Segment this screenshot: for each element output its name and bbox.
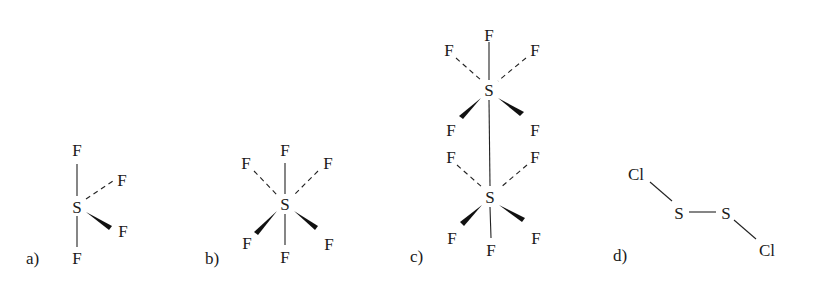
panel-label-d: d) [613,246,627,265]
atom-fluorine-top-lower-left: F [446,121,455,140]
bond-s-top-f-upper-left-dashed [456,58,482,81]
bond-s-bottom-f-upper-right-dashed [500,165,527,188]
atom-sulfur-bottom: S [485,188,494,207]
atom-fluorine-upper-right: F [323,154,332,173]
panel-b: S F F F F F F b) [205,141,334,268]
bond-s-f-upper-right-dashed [86,181,113,199]
atom-fluorine-top-upper-right: F [530,41,539,60]
atom-fluorine-lower-right: F [118,222,127,241]
panel-a: S F F F F a) [26,141,128,268]
atom-fluorine-bottom: F [72,249,81,268]
bond-s-bottom-f-lower-right-wedge [499,205,525,222]
atom-fluorine-top: F [484,26,493,45]
bond-s-f-lower-right-wedge [294,211,318,230]
panel-label-b: b) [205,249,219,268]
bond-s-bottom-f-upper-left-dashed [457,165,483,188]
atom-fluorine-top: F [72,141,81,160]
bond-s-f-lower-right-wedge [86,212,112,230]
bond-cl-s-left [650,182,672,201]
panel-label-c: c) [410,247,423,266]
atom-fluorine-bottom: F [280,248,289,267]
bond-s-top-f-lower-right-wedge [498,98,524,116]
atom-fluorine-top-upper-left: F [444,41,453,60]
atom-fluorine-bottom: F [486,241,495,260]
bond-s-f-bottom [490,207,491,238]
atom-fluorine-upper-right: F [117,171,126,190]
panel-d: Cl S S Cl d) [613,165,775,265]
atom-fluorine-bottom-upper-left: F [446,148,455,167]
atom-sulfur-right: S [721,204,730,223]
atom-sulfur: S [280,195,289,214]
bond-s-top-f-lower-left-wedge [459,98,481,119]
atom-fluorine-lower-left: F [242,234,251,253]
bond-s-s [489,100,490,186]
bond-s-top-f-upper-right-dashed [498,58,526,81]
atom-fluorine-bottom-lower-left: F [447,229,456,248]
bond-s-bottom-f-lower-left-wedge [460,205,482,226]
atom-sulfur-top: S [484,81,493,100]
atom-sulfur-left: S [674,204,683,223]
molecule-figure: S F F F F a) S F F F F F F b) [0,0,834,293]
bond-s-f-upper-right-dashed [293,171,318,196]
bond-s-f-upper-left-dashed [254,171,278,196]
atom-chlorine-right: Cl [759,241,775,260]
atom-fluorine-bottom-upper-right: F [530,148,539,167]
atom-fluorine-top: F [280,141,289,160]
atom-fluorine-lower-right: F [324,235,333,254]
bond-s-cl-right [734,220,756,239]
atom-fluorine-upper-left: F [241,154,250,173]
atom-sulfur: S [72,198,81,217]
panel-c: S S F F F F F F F F F F c) [410,26,541,266]
atom-fluorine-top-lower-right: F [530,121,539,140]
panel-label-a: a) [26,249,39,268]
atom-chlorine-left: Cl [628,165,644,184]
atom-fluorine-bottom-lower-right: F [531,229,540,248]
bond-s-f-lower-left-wedge [254,211,277,235]
